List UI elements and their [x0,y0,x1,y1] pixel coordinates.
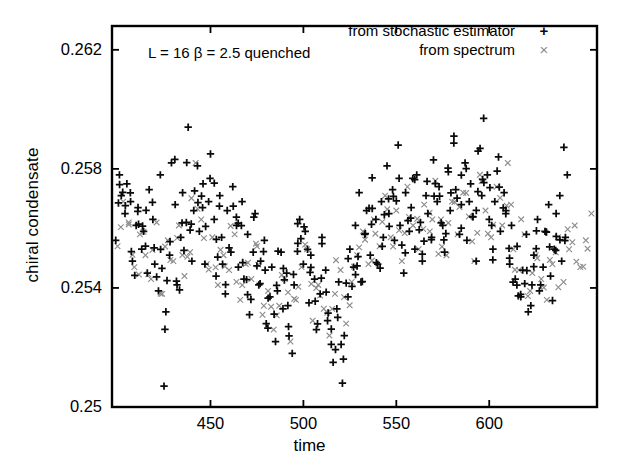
x-tick-label: 450 [175,414,245,433]
y-tick-label: 0.258 [40,159,102,178]
axis-ticks [112,26,597,407]
legend-entry-spectrum: from spectrum [300,41,515,58]
y-tick-label: 0.254 [40,278,102,297]
x-axis-label-text: time [293,436,325,455]
plus-marker-icon: + [534,22,554,39]
y-axis-label: chiral condensate [10,0,56,430]
legend-label-spectrum: from spectrum [419,41,515,58]
legend-entry-stochastic-estimator: from stochastic estimator [300,22,515,39]
series-from-spectrum [115,160,594,344]
cross-marker-icon: × [534,41,554,58]
legend-label-stochastic-estimator: from stochastic estimator [348,22,515,39]
x-tick-label: 500 [268,414,338,433]
x-tick-label: 550 [361,414,431,433]
series-from-stochastic-estimator [112,115,571,390]
y-tick-label: 0.262 [40,40,102,59]
y-tick-label: 0.25 [40,397,102,416]
x-axis-label: time [0,436,617,456]
plot-annotation: L = 16 β = 2.5 quenched [148,44,310,61]
x-tick-label: 600 [454,414,524,433]
axes-frame [112,26,597,407]
scatter-plot-figure: chiral condensate time 0.250.2540.2580.2… [0,0,617,471]
